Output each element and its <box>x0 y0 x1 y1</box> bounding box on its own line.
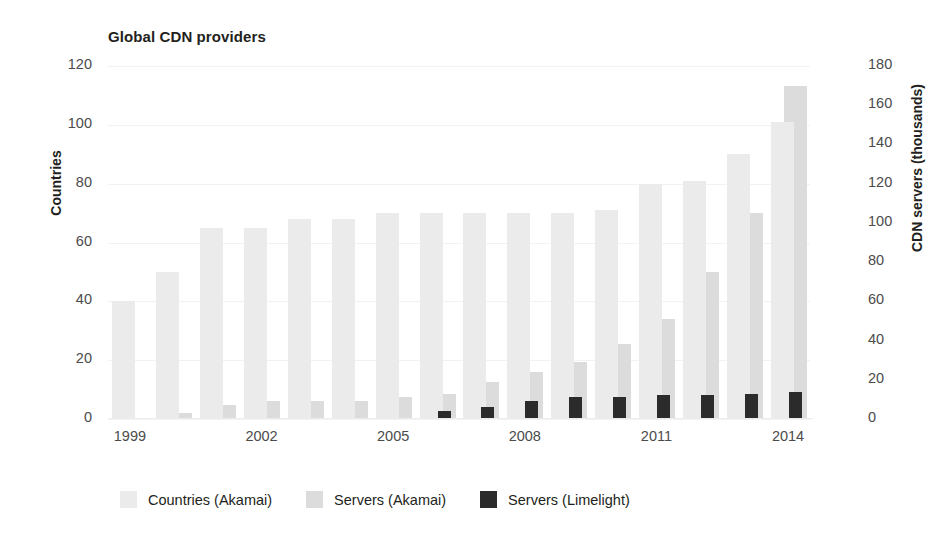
bar-countries-akamai <box>771 122 794 419</box>
y-axis-right-tick-label: 160 <box>868 95 892 111</box>
y-axis-left-tick-label: 120 <box>44 56 92 72</box>
y-axis-right-tick-label: 80 <box>868 252 884 268</box>
plot-area <box>108 66 810 419</box>
gridline <box>108 66 810 67</box>
y-axis-right-tick-label: 40 <box>868 331 884 347</box>
x-axis-tick-label: 1999 <box>114 428 146 444</box>
y-axis-left-tick-label: 20 <box>44 350 92 366</box>
bar-servers-limelight <box>701 395 714 419</box>
bar-countries-akamai <box>288 219 311 419</box>
legend-swatch-icon <box>306 491 323 508</box>
x-axis-baseline <box>108 418 813 419</box>
bar-servers-limelight <box>613 397 626 419</box>
bar-countries-akamai <box>376 213 399 419</box>
bar-countries-akamai <box>463 213 486 419</box>
bar-countries-akamai <box>507 213 530 419</box>
x-axis-tick-label: 2002 <box>245 428 277 444</box>
y-axis-right-tick-label: 120 <box>868 174 892 190</box>
chart-figure: Global CDN providers Countries CDN serve… <box>0 0 934 538</box>
bar-countries-akamai <box>156 272 179 419</box>
y-axis-right-tick-label: 140 <box>868 134 892 150</box>
bar-countries-akamai <box>332 219 355 419</box>
bar-servers-limelight <box>569 397 582 419</box>
bar-countries-akamai <box>551 213 574 419</box>
y-axis-right-tick-label: 0 <box>868 409 876 425</box>
legend-swatch-icon <box>480 491 497 508</box>
bar-countries-akamai <box>595 210 618 419</box>
bar-servers-limelight <box>657 395 670 419</box>
y-axis-right-tick-label: 20 <box>868 370 884 386</box>
legend-label: Servers (Akamai) <box>334 492 446 508</box>
legend-swatch-icon <box>120 491 137 508</box>
legend-label: Countries (Akamai) <box>148 492 272 508</box>
y-axis-right-tick-label: 60 <box>868 291 884 307</box>
y-axis-right-title: CDN servers (thousands) <box>909 63 925 273</box>
x-axis-tick-label: 2011 <box>641 428 672 444</box>
legend-label: Servers (Limelight) <box>508 492 630 508</box>
gridline <box>108 419 810 420</box>
x-axis-tick-label: 2014 <box>772 428 804 444</box>
bar-servers-limelight <box>525 401 538 419</box>
bar-servers-limelight <box>745 394 758 419</box>
bar-servers-limelight <box>789 392 802 419</box>
bar-countries-akamai <box>200 228 223 419</box>
x-axis-tick-label: 2005 <box>377 428 409 444</box>
bar-countries-akamai <box>420 213 443 419</box>
bar-countries-akamai <box>639 184 662 419</box>
y-axis-right-tick-label: 100 <box>868 213 892 229</box>
y-axis-right-tick-label: 180 <box>868 56 892 72</box>
chart-legend: Countries (Akamai)Servers (Akamai)Server… <box>120 491 630 508</box>
bar-countries-akamai <box>683 181 706 419</box>
legend-item[interactable]: Servers (Limelight) <box>480 491 630 508</box>
y-axis-left-tick-label: 40 <box>44 291 92 307</box>
legend-item[interactable]: Countries (Akamai) <box>120 491 272 508</box>
chart-title: Global CDN providers <box>108 28 266 45</box>
x-axis-tick-label: 2008 <box>509 428 541 444</box>
gridline <box>108 125 810 126</box>
bar-countries-akamai <box>727 154 750 419</box>
y-axis-left-tick-label: 0 <box>44 409 92 425</box>
bar-countries-akamai <box>244 228 267 419</box>
legend-item[interactable]: Servers (Akamai) <box>306 491 446 508</box>
bar-countries-akamai <box>112 301 135 419</box>
y-axis-left-title: Countries <box>48 123 64 243</box>
